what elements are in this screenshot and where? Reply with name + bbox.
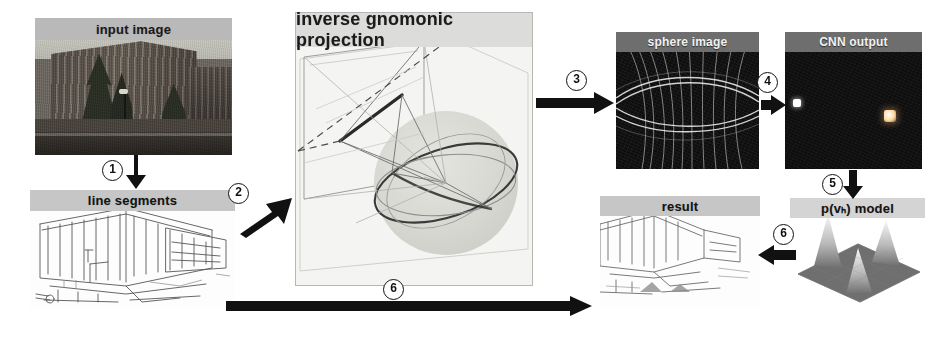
result-drawing (600, 196, 760, 308)
panel-line-segments: line segments (30, 190, 235, 308)
step-badge-6-bottom: 6 (383, 279, 404, 300)
cnn-hotspot-right (884, 110, 896, 122)
input-image-content (35, 18, 232, 155)
step-number: 6 (390, 281, 397, 295)
step-badge-6-right: 6 (773, 224, 794, 245)
step-badge-2: 2 (228, 183, 249, 204)
step-badge-4: 4 (757, 72, 778, 93)
sphere-image-noise (616, 32, 759, 169)
arrow-step-5 (843, 170, 865, 200)
step-number: 4 (764, 74, 771, 88)
result-content (600, 196, 760, 308)
arrow-step-2 (238, 196, 298, 238)
step-badge-5: 5 (822, 174, 843, 195)
panel-input-image: input image (35, 18, 232, 155)
arrow-step-6-model-to-result (758, 245, 796, 265)
line-segments-content (30, 190, 235, 308)
panel-inverse-gnomonic-projection: inverse gnomonic projection (295, 12, 533, 286)
pvh-model-content (790, 198, 925, 308)
step-number: 3 (573, 72, 580, 86)
cnn-output-content (785, 32, 922, 169)
step-number: 1 (109, 162, 116, 176)
step-badge-3: 3 (566, 70, 587, 91)
step-number: 5 (829, 176, 836, 190)
line-segments-drawing (30, 190, 235, 308)
panel-cnn-output: CNN output (785, 32, 922, 169)
sphere-image-content (616, 32, 759, 169)
panel-pvh-model: p(vₕ) model (790, 198, 925, 308)
projection-geometry (296, 13, 532, 285)
panel-result: result (600, 196, 760, 308)
panel-sphere-image: sphere image (616, 32, 759, 169)
cnn-hotspot-left (793, 99, 801, 107)
cnn-output-noise (785, 32, 922, 169)
step-number: 2 (235, 185, 242, 199)
pvh-surface-plot (790, 198, 925, 308)
arrow-step-4 (761, 95, 787, 115)
step-badge-1: 1 (102, 160, 123, 181)
photo-grain (35, 18, 232, 155)
arrow-step-1 (124, 155, 148, 191)
arrow-step-6-segments-to-result (226, 296, 594, 316)
arrow-step-3 (536, 92, 616, 114)
step-number: 6 (780, 226, 787, 240)
figure-canvas: input image (0, 0, 951, 346)
projection-content (296, 13, 532, 285)
